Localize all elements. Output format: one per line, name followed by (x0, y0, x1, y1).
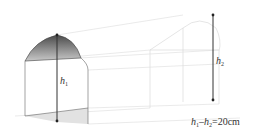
front-arch-cap (25, 35, 81, 61)
h1-label: h1 (60, 75, 68, 87)
diagram-canvas: h1 h2 h1–h2=20cm (0, 0, 261, 140)
h2-measure (212, 14, 215, 102)
h2-label: h2 (216, 55, 224, 67)
longitudinal-edges (15, 15, 240, 124)
height-difference-equation: h1–h2=20cm (191, 116, 240, 128)
tunnel-diagram: h1 h2 h1–h2=20cm (0, 0, 261, 140)
